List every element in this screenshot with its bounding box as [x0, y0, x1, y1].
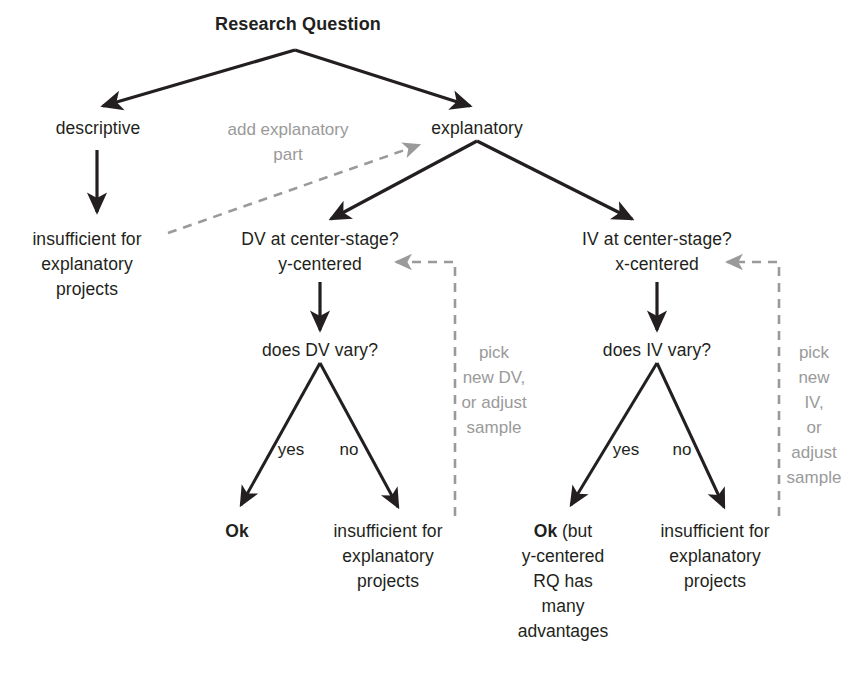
note-add-explanatory-part: add explanatory part — [228, 117, 349, 167]
edge-root-to-explanatory — [295, 50, 470, 106]
edge-dv-yes — [241, 363, 320, 505]
node-iv-yes-outcome-rest: (but y-centered RQ has many advantages — [518, 521, 609, 641]
edge-pick-new-iv-loop — [727, 262, 779, 516]
node-explanatory: explanatory — [431, 116, 523, 141]
edge-label-dv-no: no — [340, 440, 359, 460]
node-iv-no-outcome: insufficient for explanatory projects — [660, 519, 769, 594]
note-pick-new-dv: pick new DV, or adjust sample — [461, 340, 526, 440]
node-iv-at-center-stage: IV at center-stage? x-centered — [582, 227, 732, 277]
edge-label-iv-no: no — [673, 440, 692, 460]
edge-explanatory-to-dv — [331, 141, 477, 219]
node-dv-no-outcome: insufficient for explanatory projects — [333, 519, 442, 594]
edge-pick-new-dv-loop — [396, 262, 455, 516]
diagram-canvas: Research Question descriptive explanator… — [0, 0, 855, 678]
node-iv-yes-outcome-bold: Ok — [534, 521, 557, 541]
node-dv-at-center-stage: DV at center-stage? y-centered — [241, 227, 399, 277]
node-descriptive: descriptive — [56, 116, 141, 141]
edge-iv-yes — [571, 363, 657, 505]
node-iv-yes-outcome: Ok (but y-centered RQ has many advantage… — [518, 519, 609, 644]
node-does-dv-vary: does DV vary? — [262, 338, 378, 363]
note-pick-new-iv: pick new IV, or adjust sample — [787, 340, 842, 490]
edge-explanatory-to-iv — [477, 141, 632, 219]
edge-label-dv-yes: yes — [278, 440, 304, 460]
node-research-question: Research Question — [215, 12, 381, 37]
edge-root-to-descriptive — [103, 50, 295, 106]
edge-iv-no — [657, 363, 724, 507]
edge-label-iv-yes: yes — [613, 440, 639, 460]
node-dv-yes-outcome: Ok — [225, 519, 249, 544]
edge-dv-no — [320, 363, 398, 507]
node-descriptive-outcome: insufficient for explanatory projects — [32, 227, 141, 302]
node-does-iv-vary: does IV vary? — [603, 338, 711, 363]
